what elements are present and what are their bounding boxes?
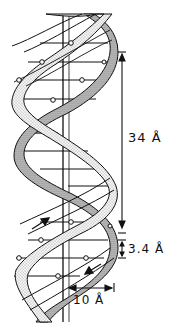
dna-helix-diagram [0, 0, 179, 324]
pitch-label: 34 Å [128, 130, 162, 145]
rise-label: 3.4 Å [128, 242, 164, 256]
radius-label: 10 Å [73, 293, 104, 307]
rise-dimension [118, 233, 126, 258]
pitch-dimension [118, 52, 126, 228]
